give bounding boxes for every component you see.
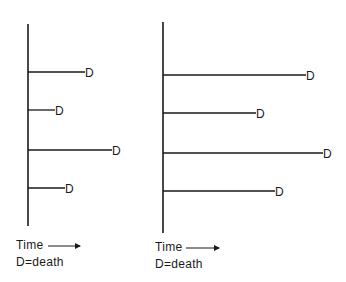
death-marker-label: D <box>323 147 332 161</box>
death-marker-label: D <box>256 107 265 121</box>
death-marker-label: D <box>65 182 74 196</box>
time-label: Time <box>155 240 182 254</box>
legend-death: D=death <box>155 257 203 271</box>
death-marker-label: D <box>306 69 315 83</box>
death-marker-label: D <box>85 66 94 80</box>
panel-left: DDDD <box>28 24 121 246</box>
death-marker-label: D <box>275 185 284 199</box>
time-label: Time <box>16 238 43 252</box>
legend-death: D=death <box>16 255 64 269</box>
death-marker-label: D <box>112 144 121 158</box>
panel-right: DDDD <box>163 22 332 248</box>
death-marker-label: D <box>55 104 64 118</box>
